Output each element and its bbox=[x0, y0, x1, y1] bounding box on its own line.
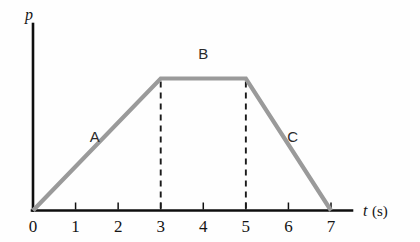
x-axis-tick-label: 0 bbox=[29, 217, 38, 236]
segment-label-b: B bbox=[198, 45, 208, 62]
x-axis-label-symbol: t bbox=[363, 202, 368, 219]
x-axis-tick-labels: 01234567 bbox=[29, 217, 336, 236]
x-axis-label-unit: (s) bbox=[372, 203, 388, 220]
pressure-time-graph: 01234567 ABC p t (s) bbox=[0, 0, 420, 242]
segment-label-a: A bbox=[90, 128, 100, 145]
segment-label-c: C bbox=[287, 128, 298, 145]
x-axis-tick-label: 4 bbox=[199, 217, 208, 236]
axes-group bbox=[32, 24, 352, 211]
x-axis-tick-label: 3 bbox=[156, 217, 165, 236]
dashed-guide-lines bbox=[161, 82, 246, 210]
x-axis-tick-label: 6 bbox=[284, 217, 293, 236]
x-axis-tick-marks bbox=[76, 203, 331, 210]
x-axis-tick-label: 2 bbox=[114, 217, 123, 236]
segment-labels-group: ABC bbox=[90, 45, 299, 145]
x-axis-tick-label: 5 bbox=[242, 217, 251, 236]
figure-container: 01234567 ABC p t (s) bbox=[0, 0, 420, 242]
x-axis-tick-label: 7 bbox=[327, 217, 336, 236]
x-axis-tick-label: 1 bbox=[71, 217, 80, 236]
y-axis-label: p bbox=[24, 6, 33, 24]
